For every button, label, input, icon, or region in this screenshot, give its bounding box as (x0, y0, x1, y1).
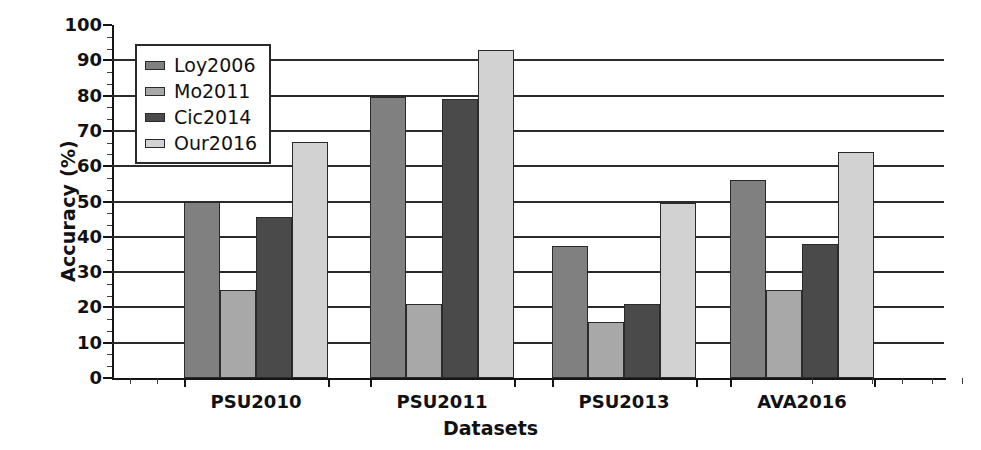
x-axis-tick-label-psu2011: PSU2011 (372, 391, 512, 412)
x-axis-minor-tick (962, 378, 963, 384)
x-axis-tick (730, 378, 732, 387)
y-axis-tick (103, 201, 112, 203)
bar-loy2006-psu2011 (370, 97, 406, 378)
bar-loy2006-psu2010 (184, 202, 220, 379)
x-axis-tick (552, 378, 554, 387)
bar-loy2006-ava2016 (730, 180, 766, 378)
y-axis-minor-tick (107, 249, 112, 250)
y-axis-tick (103, 236, 112, 238)
y-axis-tick-label: 50 (56, 193, 102, 211)
legend-label-mo2011: Mo2011 (174, 82, 250, 101)
y-axis-tick (103, 59, 112, 61)
y-axis-minor-tick (107, 260, 112, 261)
y-axis-minor-tick (107, 107, 112, 108)
y-axis-minor-tick (107, 178, 112, 179)
x-axis-tick (328, 378, 330, 387)
y-axis-minor-tick (107, 154, 112, 155)
bar-mo2011-psu2011 (406, 304, 442, 378)
legend-item-mo2011: Mo2011 (145, 78, 257, 104)
y-axis-tick-label: 40 (56, 228, 102, 246)
y-axis-tick (103, 377, 112, 379)
x-axis-minor-tick (812, 378, 813, 384)
y-axis-tick (103, 271, 112, 273)
x-axis-title: Datasets (0, 417, 981, 439)
y-axis-minor-tick (107, 284, 112, 285)
x-axis-minor-tick (872, 378, 873, 384)
legend-label-our2016: Our2016 (174, 134, 257, 153)
y-axis-tick (103, 306, 112, 308)
y-axis-minor-tick (107, 49, 112, 50)
y-axis-minor-tick (107, 296, 112, 297)
y-axis-tick (103, 24, 112, 26)
legend-item-cic2014: Cic2014 (145, 104, 257, 130)
y-axis-minor-tick (107, 213, 112, 214)
y-axis-tick-label: 30 (56, 263, 102, 281)
y-axis-tick (103, 342, 112, 344)
gridline (112, 201, 944, 203)
y-axis-minor-tick (107, 331, 112, 332)
bar-cic2014-psu2013 (624, 304, 660, 378)
x-axis-tick-label-psu2013: PSU2013 (554, 391, 694, 412)
y-axis-tick (103, 165, 112, 167)
bar-mo2011-psu2010 (220, 290, 256, 378)
x-axis-tick-label-ava2016: AVA2016 (732, 391, 872, 412)
x-axis-tick (184, 378, 186, 387)
y-axis-tick-label: 100 (56, 16, 102, 34)
legend-swatch-our2016 (145, 139, 165, 148)
bar-cic2014-psu2011 (442, 99, 478, 378)
x-axis-minor-tick (157, 378, 158, 384)
bar-our2016-psu2010 (292, 142, 328, 379)
legend-item-loy2006: Loy2006 (145, 52, 257, 78)
y-axis-minor-tick (107, 37, 112, 38)
y-axis-minor-tick (107, 354, 112, 355)
y-axis-tick-label: 10 (56, 334, 102, 352)
gridline (112, 165, 944, 167)
bar-mo2011-psu2013 (588, 322, 624, 378)
bar-our2016-psu2013 (660, 203, 696, 378)
x-axis-minor-tick (130, 378, 131, 384)
x-axis-tick-label-psu2010: PSU2010 (186, 391, 326, 412)
y-axis-tick-label: 60 (56, 157, 102, 175)
y-axis-minor-tick (107, 119, 112, 120)
x-axis-minor-tick (932, 378, 933, 384)
x-axis-tick (696, 378, 698, 387)
y-axis-minor-tick (107, 143, 112, 144)
legend-swatch-mo2011 (145, 87, 165, 96)
y-axis-tick (103, 95, 112, 97)
bar-our2016-ava2016 (838, 152, 874, 378)
x-axis-tick (874, 378, 876, 387)
x-axis-tick (370, 378, 372, 387)
legend-label-cic2014: Cic2014 (174, 108, 251, 127)
bar-cic2014-psu2010 (256, 217, 292, 378)
y-axis-minor-tick (107, 72, 112, 73)
y-axis-tick-label: 80 (56, 87, 102, 105)
bar-loy2006-psu2013 (552, 246, 588, 378)
bar-mo2011-ava2016 (766, 290, 802, 378)
legend-swatch-loy2006 (145, 61, 165, 70)
y-axis-minor-tick (107, 84, 112, 85)
y-axis-tick (103, 130, 112, 132)
y-axis-minor-tick (107, 319, 112, 320)
x-axis-line (112, 378, 946, 380)
bar-chart: Accuracy (%) PSU2010PSU2011PSU2013AVA201… (0, 0, 981, 450)
x-axis-minor-tick (902, 378, 903, 384)
y-axis-tick-label: 70 (56, 122, 102, 140)
y-axis-tick-label: 20 (56, 298, 102, 316)
y-axis-minor-tick (107, 190, 112, 191)
legend-swatch-cic2014 (145, 113, 165, 122)
chart-legend: Loy2006Mo2011Cic2014Our2016 (135, 44, 271, 164)
y-axis-tick-label: 90 (56, 51, 102, 69)
bar-our2016-psu2011 (478, 50, 514, 378)
y-axis-minor-tick (107, 225, 112, 226)
gridline (112, 236, 944, 238)
x-axis-tick (514, 378, 516, 387)
legend-label-loy2006: Loy2006 (174, 56, 255, 75)
legend-item-our2016: Our2016 (145, 130, 257, 156)
y-axis-minor-tick (107, 366, 112, 367)
bar-cic2014-ava2016 (802, 244, 838, 378)
y-axis-tick-label: 0 (56, 369, 102, 387)
